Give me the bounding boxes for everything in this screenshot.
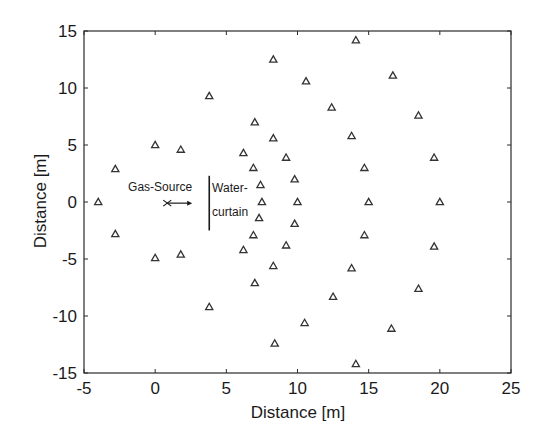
- y-tick-label: -10: [52, 307, 77, 326]
- triangle-marker-icon: [431, 243, 438, 249]
- triangle-marker-icon: [431, 154, 438, 160]
- triangle-marker-icon: [112, 165, 119, 171]
- triangle-marker-icon: [112, 230, 119, 236]
- scatter-chart: -50510152025-15-10-5051015 Gas-Source Wa…: [0, 0, 548, 447]
- triangle-marker-icon: [270, 262, 277, 268]
- y-axis-label: Distance [m]: [31, 154, 50, 248]
- triangle-marker-icon: [257, 181, 264, 187]
- y-tick-label: 5: [68, 136, 77, 155]
- triangle-marker-icon: [270, 56, 277, 62]
- triangle-marker-icon: [388, 325, 395, 331]
- x-tick-label: 25: [502, 379, 521, 398]
- triangle-marker-icon: [283, 154, 290, 160]
- triangle-marker-icon: [352, 37, 359, 43]
- triangle-marker-icon: [270, 135, 277, 141]
- triangle-marker-icon: [291, 176, 298, 182]
- x-tick-label: 20: [430, 379, 449, 398]
- sensor-markers: [95, 37, 444, 367]
- triangle-marker-icon: [301, 319, 308, 325]
- triangle-marker-icon: [240, 149, 247, 155]
- gas-source-label: Gas-Source: [128, 180, 192, 194]
- x-tick-label: 0: [150, 379, 159, 398]
- triangle-marker-icon: [152, 254, 159, 260]
- triangle-marker-icon: [365, 198, 372, 204]
- triangle-marker-icon: [348, 132, 355, 138]
- triangle-marker-icon: [250, 164, 257, 170]
- triangle-marker-icon: [352, 360, 359, 366]
- triangle-marker-icon: [95, 198, 102, 204]
- triangle-marker-icon: [389, 72, 396, 78]
- triangle-marker-icon: [251, 279, 258, 285]
- gas-source-marker-icon: [163, 200, 192, 206]
- triangle-marker-icon: [436, 198, 443, 204]
- triangle-marker-icon: [206, 303, 213, 309]
- plot-area: [84, 31, 511, 373]
- triangle-marker-icon: [250, 231, 257, 237]
- triangle-marker-icon: [177, 251, 184, 257]
- x-tick-label: 10: [288, 379, 307, 398]
- y-tick-label: 15: [58, 22, 77, 41]
- triangle-marker-icon: [415, 285, 422, 291]
- triangle-marker-icon: [361, 164, 368, 170]
- x-tick-label: -5: [76, 379, 91, 398]
- triangle-marker-icon: [152, 141, 159, 147]
- x-axis-label: Distance [m]: [251, 403, 345, 422]
- triangle-marker-icon: [302, 78, 309, 84]
- triangle-marker-icon: [255, 214, 262, 220]
- triangle-marker-icon: [283, 242, 290, 248]
- axis-ticks: -50510152025-15-10-5051015: [52, 22, 520, 398]
- triangle-marker-icon: [258, 198, 265, 204]
- triangle-marker-icon: [251, 119, 258, 125]
- triangle-marker-icon: [240, 246, 247, 252]
- y-tick-label: 0: [68, 193, 77, 212]
- plot-frame: [84, 31, 511, 373]
- triangle-marker-icon: [361, 231, 368, 237]
- triangle-marker-icon: [271, 340, 278, 346]
- triangle-marker-icon: [206, 92, 213, 98]
- water-curtain-label-line2: curtain: [212, 205, 248, 219]
- triangle-marker-icon: [177, 146, 184, 152]
- y-tick-label: -15: [52, 364, 77, 383]
- triangle-marker-icon: [328, 104, 335, 110]
- annotations: Gas-Source Water- curtain: [128, 176, 248, 231]
- triangle-marker-icon: [329, 293, 336, 299]
- triangle-marker-icon: [348, 265, 355, 271]
- y-tick-label: -5: [62, 250, 77, 269]
- x-tick-label: 5: [222, 379, 231, 398]
- triangle-marker-icon: [294, 198, 301, 204]
- x-tick-label: 15: [359, 379, 378, 398]
- triangle-marker-icon: [291, 220, 298, 226]
- water-curtain-label-line1: Water-: [212, 181, 248, 195]
- triangle-marker-icon: [415, 112, 422, 118]
- y-tick-label: 10: [58, 79, 77, 98]
